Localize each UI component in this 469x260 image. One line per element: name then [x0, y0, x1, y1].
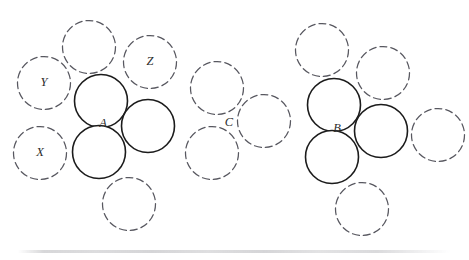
solid-circle — [306, 131, 359, 184]
dashed-circle — [412, 109, 465, 162]
circle-label-a: A — [98, 116, 107, 130]
dashed-circle — [357, 47, 410, 100]
dashed-circle — [186, 127, 239, 180]
circle-label-z: Z — [147, 54, 155, 68]
dashed-circle — [336, 183, 389, 236]
circle-label-y: Y — [41, 75, 50, 89]
figure-canvas: ABCXYZ — [0, 0, 469, 260]
dashed-circle — [238, 95, 291, 148]
dashed-circle — [63, 21, 116, 74]
circle-label-b: B — [333, 121, 341, 135]
circle-packing-diagram: ABCXYZ — [0, 0, 469, 260]
solid-circle — [355, 105, 408, 158]
solid-circle-group — [73, 75, 408, 184]
solid-circle — [122, 100, 175, 153]
circle-label-c: C — [225, 115, 234, 129]
dashed-circle — [296, 24, 349, 77]
dashed-circle — [103, 178, 156, 231]
dashed-circle — [191, 62, 244, 115]
solid-circle — [73, 126, 126, 179]
circle-label-x: X — [35, 145, 45, 159]
